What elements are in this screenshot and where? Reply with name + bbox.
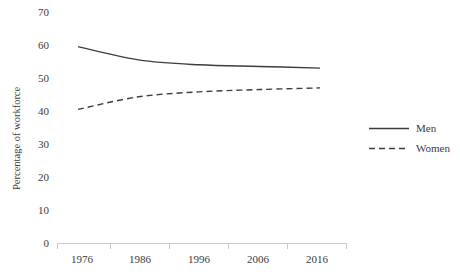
y-axis-title: Percentage of workforce [11,86,22,190]
y-tick-label: 30 [38,138,50,150]
chart-canvas: 70 60 50 40 30 20 10 0 Percentage of wor… [0,0,460,279]
legend-label-women: Women [416,142,450,154]
y-tick-label: 50 [38,72,50,84]
y-tick-label: 0 [44,237,50,249]
x-tick-label: 1996 [188,253,211,265]
y-tick-label: 40 [38,105,50,117]
x-tick-label: 2016 [306,253,329,265]
x-tick-label: 1986 [129,253,152,265]
legend-label-men: Men [416,122,437,134]
x-tick-label: 1976 [71,253,94,265]
y-tick-label: 60 [38,39,50,51]
line-chart: 70 60 50 40 30 20 10 0 Percentage of wor… [0,0,460,279]
chart-background [0,0,460,279]
y-tick-label: 20 [38,171,50,183]
y-tick-label: 70 [38,6,50,18]
x-tick-label: 2006 [247,253,270,265]
y-tick-label: 10 [38,204,50,216]
